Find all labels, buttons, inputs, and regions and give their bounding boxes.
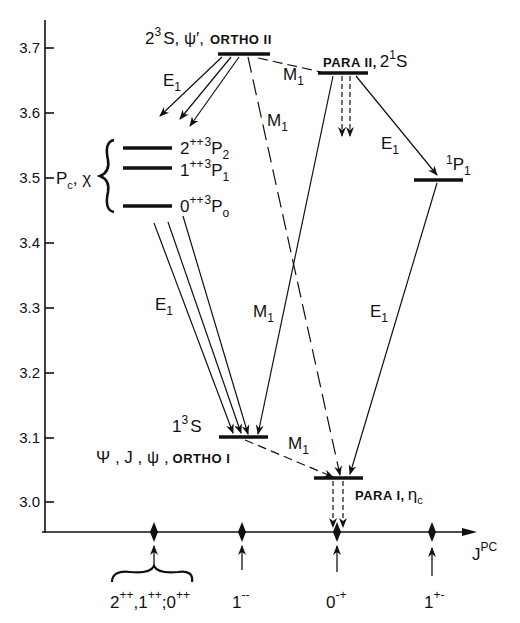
diamond-marker-icon [428, 522, 436, 542]
transition-label-e1: E1 [381, 134, 399, 157]
label-chi-1: 1++3P1 [180, 157, 230, 184]
transition-label-e1: E1 [163, 71, 181, 94]
transition-label-m1: M1 [288, 434, 309, 457]
y-tick-label: 3.2 [19, 364, 40, 381]
y-tick-label: 3.7 [19, 39, 40, 56]
label-ortho-i-names: Ψ , J , ψ ,ORTHO I [96, 448, 230, 467]
label-chi-0: 0++3Po [180, 193, 230, 220]
y-tick-label: 3.1 [19, 429, 40, 446]
jpc-label-1mm: 1-- [232, 588, 249, 612]
transition-label-e1: E1 [370, 302, 388, 325]
y-tick-label: 3.3 [19, 299, 40, 316]
y-tick-label: 3.5 [19, 169, 40, 186]
axis-arrow-icon [462, 528, 477, 536]
jpc-label-1pm: 1+- [424, 588, 444, 612]
transition-label-m1: M1 [267, 111, 288, 134]
label-chi-group: Pc, χ [56, 169, 91, 191]
y-tick-label: 3.4 [19, 234, 40, 251]
transition-label-m1: M1 [253, 302, 274, 325]
label-para-ii: PARA II,21S [323, 48, 407, 71]
diamond-marker-icon [333, 522, 341, 542]
y-tick-label: 3.6 [19, 104, 40, 121]
jpc-label-0mp: 0-+ [326, 588, 346, 612]
transition-label-m1: M1 [283, 65, 304, 88]
diamond-marker-icon [150, 522, 158, 542]
charmonium-level-diagram: 3.7 3.6 3.5 3.4 3.3 3.2 3.1 3.0 JPC 2++,… [0, 0, 520, 623]
diamond-marker-icon [238, 522, 246, 542]
y-tick-label: 3.0 [19, 493, 40, 510]
transition-label-e1: E1 [155, 295, 173, 318]
x-axis: JPC 2++,1++;0++ 1-- 0-+ 1+- [42, 522, 498, 612]
label-para-i: PARA I,ηc [355, 485, 423, 506]
x-axis-label: JPC [472, 540, 498, 564]
label-1p1: 1P1 [446, 153, 471, 178]
jpc-label-chi: 2++,1++;0++ [110, 588, 190, 612]
brace-icon [112, 566, 192, 582]
label-ortho-i: 13S [172, 413, 202, 436]
label-ortho-ii: 23S, ψ′,ORTHO II [145, 25, 272, 48]
y-axis: 3.7 3.6 3.5 3.4 3.3 3.2 3.1 3.0 [19, 20, 54, 533]
brace-icon [100, 140, 114, 212]
